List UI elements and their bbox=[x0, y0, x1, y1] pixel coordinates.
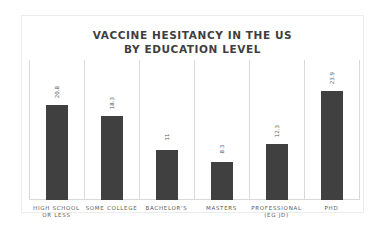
value-label: 23.9 bbox=[329, 66, 335, 90]
title-line-2: BY EDUCATION LEVEL bbox=[22, 42, 363, 56]
gridline bbox=[84, 60, 85, 200]
chart-title: VACCINE HESITANCY IN THE US BY EDUCATION… bbox=[22, 28, 363, 56]
gridline bbox=[29, 60, 30, 200]
bar bbox=[321, 91, 343, 200]
gridline bbox=[359, 60, 360, 200]
gridline bbox=[194, 60, 195, 200]
value-label: 18.3 bbox=[109, 91, 115, 115]
baseline bbox=[29, 199, 359, 200]
category-label: PHD bbox=[304, 205, 360, 212]
bar bbox=[211, 162, 233, 200]
category-label: HIGH SCHOOL OR LESS bbox=[29, 205, 85, 219]
bar bbox=[266, 144, 288, 200]
value-label: 12.3 bbox=[274, 119, 280, 143]
bar bbox=[156, 150, 178, 200]
category-label: BACHELOR'S bbox=[139, 205, 195, 212]
category-label: PROFESSIONAL (EG JD) bbox=[249, 205, 305, 219]
gridline bbox=[304, 60, 305, 200]
plot-area: 20.818.3118.312.323.9 bbox=[29, 60, 359, 200]
category-label: MASTERS bbox=[194, 205, 250, 212]
value-label: 11 bbox=[164, 125, 170, 149]
gridline bbox=[139, 60, 140, 200]
gridline bbox=[249, 60, 250, 200]
value-label: 8.3 bbox=[219, 137, 225, 161]
value-label: 20.8 bbox=[54, 80, 60, 104]
category-label: SOME COLLEGE bbox=[84, 205, 140, 212]
bar bbox=[46, 105, 68, 200]
title-line-1: VACCINE HESITANCY IN THE US bbox=[22, 28, 363, 42]
bar bbox=[101, 116, 123, 200]
